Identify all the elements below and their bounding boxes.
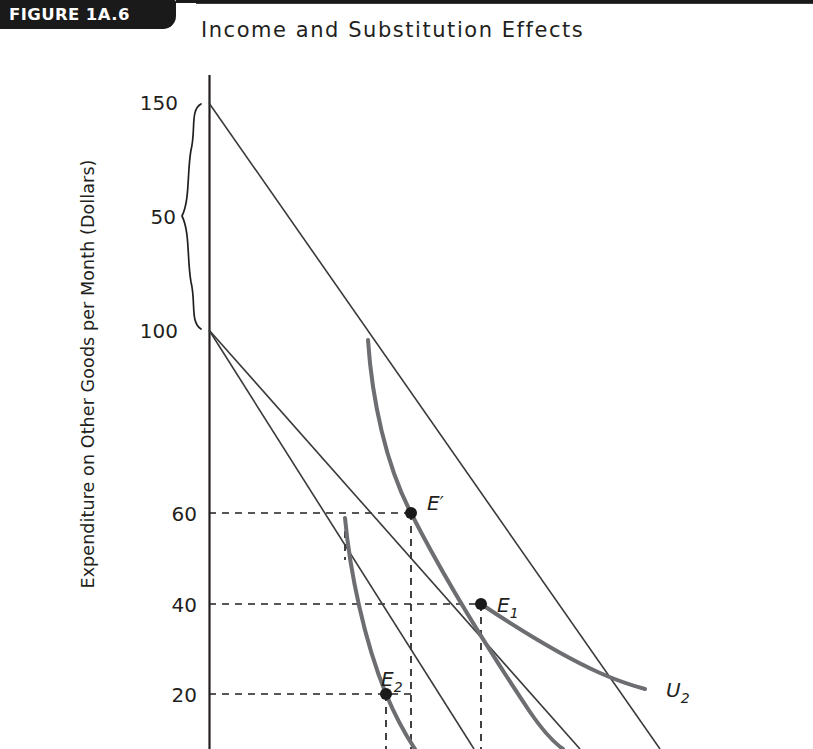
brace-150-to-100 (182, 104, 201, 329)
indifference-curve-u2-lower (345, 518, 415, 749)
y-tick-label-100: 100 (140, 319, 178, 343)
y-tick-label-20: 20 (172, 683, 197, 707)
y-tick-label-150: 150 (140, 91, 178, 115)
point-e1 (475, 598, 487, 610)
curve-label-u2: U2 (666, 678, 690, 706)
y-tick-label-40: 40 (172, 593, 197, 617)
brace-label-50: 50 (151, 205, 176, 229)
point-label-e2: E2 (381, 667, 403, 695)
point-label-e-prime: E′ (427, 491, 444, 515)
point-e-prime (405, 507, 417, 519)
chart-plot-area: 150 100 60 40 20 50 E′ E1 E2 U2 (0, 0, 813, 749)
point-label-e1: E1 (497, 593, 519, 621)
budget-line-from-100-steep (209, 330, 474, 749)
budget-line-from-150 (209, 103, 660, 749)
y-tick-label-60: 60 (172, 502, 197, 526)
